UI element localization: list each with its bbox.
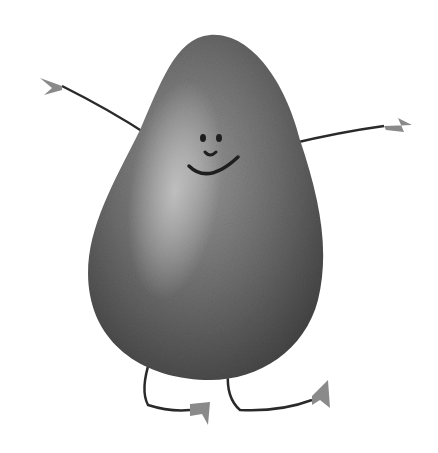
right-hand	[384, 118, 412, 132]
left-hand	[40, 78, 62, 95]
right-eye	[216, 134, 222, 142]
left-eye	[200, 134, 206, 142]
avocado-illustration	[0, 0, 438, 453]
right-foot	[312, 380, 330, 408]
avocado-character	[0, 0, 438, 453]
right-leg	[228, 372, 330, 410]
left-foot	[190, 402, 210, 425]
right-arm	[290, 118, 412, 144]
left-arm	[40, 78, 148, 135]
